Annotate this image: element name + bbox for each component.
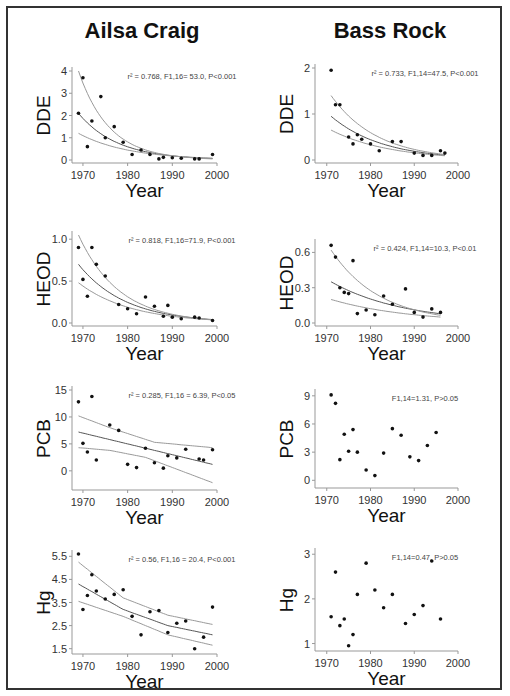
data-point — [197, 157, 201, 161]
svg-text:F1,14=1.31, P>0.05: F1,14=1.31, P>0.05 — [392, 394, 458, 403]
chart-panel-ailsa-craig-dde: 012341970198019902000YearDDEr² = 0.768, … — [33, 65, 237, 201]
data-point — [391, 593, 395, 597]
data-point — [430, 307, 434, 311]
svg-text:2000: 2000 — [446, 332, 470, 344]
data-point — [364, 308, 368, 312]
data-point — [391, 302, 395, 306]
data-point — [184, 447, 188, 451]
svg-text:4: 4 — [61, 65, 67, 77]
svg-text:2000: 2000 — [446, 657, 470, 669]
data-point — [334, 255, 338, 259]
data-point — [338, 286, 342, 290]
data-point — [144, 446, 148, 450]
svg-text:r² = 0.733, F1,14=47.5, P<0.00: r² = 0.733, F1,14=47.5, P<0.001 — [372, 69, 479, 78]
data-point — [338, 103, 342, 107]
data-point — [434, 431, 438, 435]
data-point — [364, 561, 368, 565]
svg-text:5: 5 — [61, 438, 67, 450]
data-point — [412, 151, 416, 155]
data-point — [351, 428, 355, 432]
data-point — [426, 444, 430, 448]
data-point — [412, 311, 416, 315]
data-point — [175, 456, 179, 460]
data-point — [162, 466, 166, 470]
chart-panels: 012341970198019902000YearDDEr² = 0.768, … — [0, 0, 510, 696]
data-point — [130, 153, 134, 157]
svg-text:Hg: Hg — [33, 590, 54, 614]
svg-text:PCB: PCB — [33, 419, 54, 458]
data-point — [211, 605, 215, 609]
svg-text:0: 0 — [304, 154, 310, 166]
svg-text:10: 10 — [55, 411, 67, 423]
data-point — [334, 402, 338, 406]
svg-text:1970: 1970 — [315, 332, 339, 344]
data-point — [81, 76, 85, 80]
data-point — [404, 287, 408, 291]
svg-text:2000: 2000 — [446, 494, 470, 506]
data-point — [139, 148, 143, 152]
data-point — [135, 466, 139, 470]
svg-text:r² = 0.56, F1,16 = 20.4, P<0.0: r² = 0.56, F1,16 = 20.4, P<0.001 — [129, 555, 236, 564]
data-point — [430, 154, 434, 158]
svg-text:1970: 1970 — [71, 332, 95, 344]
data-point — [356, 593, 360, 597]
data-point — [329, 69, 333, 73]
data-point — [81, 442, 85, 446]
svg-text:1970: 1970 — [315, 494, 339, 506]
svg-text:r² = 0.424, F1,14=10.3, P<0.01: r² = 0.424, F1,14=10.3, P<0.01 — [374, 244, 477, 253]
data-point — [162, 314, 166, 318]
data-point — [157, 157, 161, 161]
data-point — [77, 400, 81, 404]
data-point — [211, 319, 215, 323]
data-point — [103, 136, 107, 140]
data-point — [399, 433, 403, 437]
svg-text:Year: Year — [125, 671, 164, 692]
data-point — [369, 142, 373, 146]
data-point — [157, 609, 161, 613]
svg-text:3: 3 — [304, 446, 310, 458]
data-point — [338, 458, 342, 462]
svg-text:r² = 0.285, F1,16 = 6.39, P<0.: r² = 0.285, F1,16 = 6.39, P<0.05 — [129, 391, 236, 400]
svg-text:2000: 2000 — [205, 660, 229, 672]
data-point — [166, 454, 170, 458]
data-point — [179, 317, 183, 321]
data-point — [351, 142, 355, 146]
svg-text:1970: 1970 — [71, 169, 95, 181]
chart-panel-ailsa-craig-heod: 0.00.51.01970198019902000YearHEODr² = 0.… — [33, 231, 235, 364]
data-point — [347, 135, 351, 139]
svg-text:Year: Year — [125, 507, 164, 528]
data-point — [202, 458, 206, 462]
data-point — [342, 617, 346, 621]
data-point — [382, 451, 386, 455]
data-point — [86, 145, 90, 149]
data-point — [430, 559, 434, 563]
data-point — [338, 624, 342, 628]
data-point — [148, 610, 152, 614]
data-point — [356, 450, 360, 454]
data-point — [193, 157, 197, 161]
data-point — [404, 622, 408, 626]
data-point — [329, 615, 333, 619]
data-point — [408, 455, 412, 459]
data-point — [356, 312, 360, 316]
svg-text:Year: Year — [367, 343, 406, 364]
chart-panel-bass-rock-pcb: 03691970198019902000YearPCBF1,14=1.31, P… — [276, 389, 470, 526]
data-point — [417, 459, 421, 463]
data-point — [439, 617, 443, 621]
data-point — [86, 594, 90, 598]
data-point — [439, 311, 443, 315]
data-point — [351, 633, 355, 637]
data-point — [347, 292, 351, 296]
svg-text:1990: 1990 — [160, 169, 184, 181]
data-point — [334, 570, 338, 574]
data-point — [356, 133, 360, 137]
data-point — [171, 156, 175, 160]
svg-text:Year: Year — [367, 505, 406, 526]
data-point — [153, 461, 157, 465]
data-point — [126, 463, 130, 467]
data-point — [103, 274, 107, 278]
data-point — [342, 291, 346, 295]
data-point — [162, 156, 166, 160]
data-point — [108, 423, 112, 427]
data-point — [117, 429, 121, 433]
